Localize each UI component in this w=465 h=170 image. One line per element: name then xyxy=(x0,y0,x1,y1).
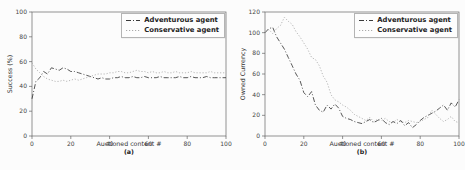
legend-item-adventurous: Adventurous agent xyxy=(358,16,452,25)
dual-line-chart-figure: Success (%) 020406080100020406080100 Adv… xyxy=(0,0,465,170)
y-tick-label: 120 xyxy=(249,8,261,15)
y-tick-label: 80 xyxy=(252,49,260,56)
y-tick-label: 20 xyxy=(252,111,260,118)
y-tick-label: 20 xyxy=(19,107,27,114)
panel-caption-a: (a) xyxy=(32,148,226,155)
legend-label-adventurous: Adventurous agent xyxy=(144,16,218,25)
y-tick-label: 100 xyxy=(249,29,261,36)
dashdot-line-sample-icon xyxy=(125,17,141,24)
legend-label-conservative: Conservative agent xyxy=(377,26,452,35)
y-tick-label: 60 xyxy=(19,58,27,65)
legend-label-adventurous: Adventurous agent xyxy=(377,16,451,25)
legend-box: Adventurous agent Conservative agent xyxy=(121,13,225,38)
series-line-conservative-agent xyxy=(32,63,226,82)
legend-item-conservative: Conservative agent xyxy=(125,26,219,35)
dotted-line-sample-icon xyxy=(358,27,374,34)
legend-item-adventurous: Adventurous agent xyxy=(125,16,219,25)
legend-item-conservative: Conservative agent xyxy=(358,26,452,35)
y-tick-label: 40 xyxy=(252,91,260,98)
x-axis-title: Auctioned content # xyxy=(265,140,459,147)
panel-caption-b: (b) xyxy=(265,148,459,155)
y-tick-label: 0 xyxy=(23,132,27,139)
legend-label-conservative: Conservative agent xyxy=(144,26,219,35)
y-tick-label: 80 xyxy=(19,33,27,40)
legend-box: Adventurous agent Conservative agent xyxy=(354,13,458,38)
series-line-adventurous-agent xyxy=(265,28,459,128)
chart-panel-a: Success (%) 020406080100020406080100 Adv… xyxy=(0,0,232,170)
y-tick-label: 40 xyxy=(19,82,27,89)
y-tick-label: 60 xyxy=(252,70,260,77)
y-tick-label: 100 xyxy=(16,8,28,15)
x-axis-title: Auctioned content # xyxy=(32,140,226,147)
dashdot-line-sample-icon xyxy=(358,17,374,24)
dotted-line-sample-icon xyxy=(125,27,141,34)
chart-panel-b: Owned Currency 0204060801001200204060801… xyxy=(233,0,465,170)
y-tick-label: 0 xyxy=(256,132,260,139)
